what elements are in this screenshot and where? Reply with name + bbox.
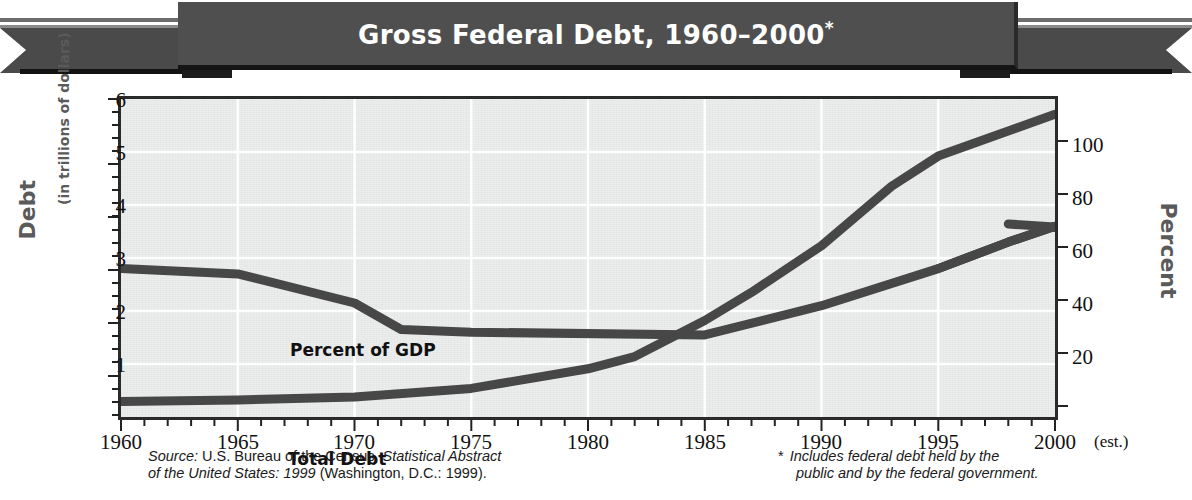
y-axis-left-subtitle-text: (in trillions of dollars) [56, 165, 72, 205]
chart-title-asterisk: * [825, 18, 834, 38]
footnote-source-label: Source: [148, 448, 198, 464]
footnote-source-title-1: Statistical Abstract [383, 448, 502, 464]
footnote-asterisk: *Includes federal debt held by the publi… [778, 448, 1039, 482]
plot-svg [121, 99, 1055, 417]
footnote-source-title-2: of the United States: 1999 [148, 465, 316, 481]
chart-region: Debt (in trillions of dollars) Percent [0, 82, 1192, 500]
footnote-source-place: (Washington, D.C.: 1999). [316, 465, 487, 481]
y-axis-right-title: Percent [1146, 212, 1190, 237]
footnote-asterisk-symbol: * [778, 448, 784, 464]
plot-area [118, 96, 1058, 420]
footnote-asterisk-line-1: Includes federal debt held by the [790, 448, 1000, 464]
footnote-asterisk-line-2: public and by the federal government. [778, 465, 1039, 482]
footnote-source: Source: U.S. Bureau of the Census, Stati… [148, 448, 501, 482]
ribbon-hairline-right [1002, 18, 1192, 22]
y-axis-left-subtitle: (in trillions of dollars) [44, 177, 84, 193]
y-axis-right-title-text: Percent [1156, 203, 1181, 247]
x-tick-1980: 1980 [548, 430, 628, 455]
y-axis-left-title: Debt [2, 202, 52, 227]
chart-title: Gross Federal Debt, 1960–2000* [358, 18, 834, 50]
y-right-tickmarks [1058, 96, 1078, 422]
y-left-tickmarks [100, 96, 120, 422]
x-tick-1985: 1985 [665, 430, 745, 455]
chart-title-text: Gross Federal Debt, 1960–2000 [358, 19, 825, 49]
footnote-source-publisher: U.S. Bureau of the Census, [198, 448, 383, 464]
ribbon-hairline2-left [0, 25, 190, 28]
series-label-percent-of-gdp: Percent of GDP [290, 340, 436, 360]
x-axis-est-note: (est.) [1094, 432, 1128, 452]
banner-center-panel: Gross Federal Debt, 1960–2000* [178, 2, 1018, 70]
ribbon-hairline-left [0, 18, 190, 22]
series-percent-of-gdp-line-b [938, 226, 1055, 268]
series-percent-of-gdp-tail [1008, 224, 1055, 227]
ribbon-hairline2-right [1002, 25, 1192, 28]
y-axis-left-title-text: Debt [15, 190, 40, 240]
title-banner: Gross Federal Debt, 1960–2000* [0, 0, 1192, 82]
